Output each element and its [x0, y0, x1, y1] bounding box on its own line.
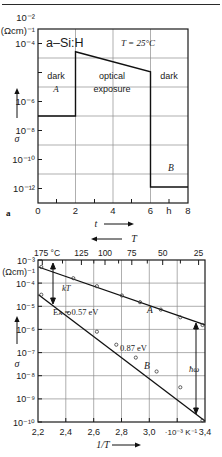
panel-b: 10⁻³ 10⁻⁴ 10⁻⁵ 10⁻⁶ 10⁻⁷ 10⁻⁸ 10⁻⁹ 10⁻¹⁰…	[0, 227, 222, 457]
y-tick-b-6: 10⁻⁹	[16, 394, 35, 404]
y-tick-a-1: 10⁻⁴	[15, 38, 35, 49]
y-tick-b-5: 10⁻⁸	[16, 371, 35, 381]
x-axis-unit-b: ·10⁻³ K⁻¹	[165, 428, 198, 437]
panel-a-plot: 10⁻² 10⁻⁴ 10⁻⁶ 10⁻⁸ 10⁻¹⁰ 10⁻¹² (Ωcm)⁻¹ …	[0, 0, 222, 230]
y-tick-b-0: 10⁻³	[17, 256, 35, 266]
region-label-optical: optical	[99, 71, 125, 81]
y-tick-a-4: 10⁻¹⁰	[12, 154, 35, 165]
x-tick-b-3: 2,8	[115, 427, 128, 437]
top-tick-b-3: 75	[127, 248, 137, 258]
curve-label-B-b: B	[144, 361, 150, 371]
panel-label-a: a	[6, 208, 11, 218]
annotation-hw: ħω	[189, 364, 199, 374]
region-label-exposure: exposure	[93, 84, 130, 94]
x-tick-a-3: 6	[148, 205, 153, 216]
x-ticks-b	[66, 418, 177, 422]
annotation-ea: Eᴀ = 0.57 eV	[53, 307, 99, 317]
x-tick-a-4: 8	[185, 205, 190, 216]
y-tick-a-2: 10⁻⁶	[16, 96, 36, 107]
top-tick-b-5: 25	[194, 248, 204, 258]
y-axis-unit-b: (Ωcm)⁻¹	[2, 267, 35, 277]
y-tick-b-1: 10⁻⁴	[16, 279, 35, 289]
x-tick-b-4: 3,0	[143, 427, 156, 437]
condition-label-a: T = 25°C	[121, 38, 156, 48]
x-axis-symbol-b: 1/T	[96, 439, 111, 450]
top-tick-b-4: 50	[158, 248, 168, 258]
curve-label-B-a: B	[168, 163, 174, 173]
y-axis-unit-a: (Ωcm)⁻¹	[1, 25, 35, 36]
x-tick-b-2: 2,6	[87, 427, 100, 437]
x-tick-b-0: 2,2	[32, 427, 45, 437]
top-tick-b-0: 175 °C	[34, 248, 60, 258]
panel-a: 10⁻² 10⁻⁴ 10⁻⁶ 10⁻⁸ 10⁻¹⁰ 10⁻¹² (Ωcm)⁻¹ …	[0, 0, 222, 230]
x-tick-a-2: 4	[110, 205, 115, 216]
top-axis-symbol-b: T	[131, 233, 138, 244]
y-tick-b-4: 10⁻⁷	[17, 348, 35, 358]
region-sublabel-A: A	[52, 84, 59, 94]
x-axis-arrow-b	[112, 442, 141, 447]
panel-b-plot: 10⁻³ 10⁻⁴ 10⁻⁵ 10⁻⁶ 10⁻⁷ 10⁻⁸ 10⁻⁹ 10⁻¹⁰…	[0, 227, 222, 457]
region-label-dark-right: dark	[160, 71, 178, 81]
curve-label-A-b: A	[146, 305, 153, 315]
region-label-dark-left: dark	[47, 71, 65, 81]
material-label-a: a–Si:H	[46, 36, 84, 50]
x-tick-b-5: 3,4	[199, 427, 212, 437]
y-tick-a-5: 10⁻¹²	[13, 183, 35, 194]
y-tick-b-2: 10⁻⁵	[16, 302, 35, 312]
x-axis-unit-a: h	[166, 205, 171, 216]
y-axis-symbol-b: σ	[15, 358, 21, 369]
kT-marker	[51, 263, 56, 304]
x-axis-arrow-a	[104, 221, 134, 226]
top-tick-b-1: 125	[74, 248, 88, 258]
x-tick-a-1: 2	[73, 205, 78, 216]
annotation-eb: 0.87 eV	[120, 343, 148, 353]
x-tick-b-1: 2,4	[60, 427, 73, 437]
top-tick-b-2: 100	[98, 248, 112, 258]
figure-page: 10⁻² 10⁻⁴ 10⁻⁶ 10⁻⁸ 10⁻¹⁰ 10⁻¹² (Ωcm)⁻¹ …	[0, 0, 222, 457]
y-tick-b-7: 10⁻¹⁰	[13, 418, 35, 428]
annotation-kT: kT	[62, 283, 72, 293]
y-tick-b-3: 10⁻⁶	[16, 325, 35, 335]
top-axis-arrow-b	[91, 236, 122, 241]
y-tick-a-0: 10⁻²	[16, 12, 35, 23]
x-tick-a-0: 0	[35, 205, 40, 216]
